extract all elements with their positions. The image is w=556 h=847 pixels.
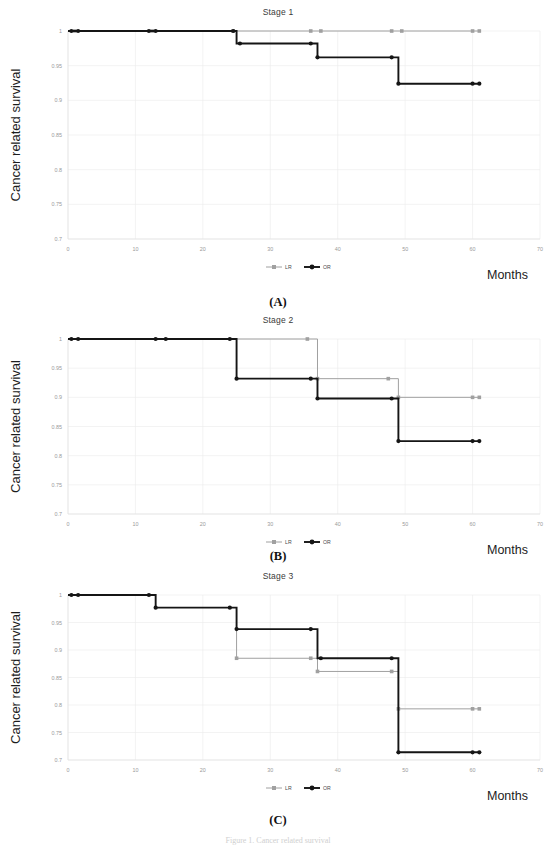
y-tick-label: 0.9 (55, 97, 63, 103)
censor-mark-lr (309, 29, 313, 33)
censor-mark-or (154, 337, 158, 341)
series-line-or (68, 595, 479, 752)
panel-title-stage-2: Stage 2 (0, 314, 556, 327)
x-tick-label: 20 (200, 521, 206, 527)
censor-mark-lr (235, 656, 239, 660)
censor-mark-or (477, 750, 481, 754)
censor-mark-or (470, 750, 474, 754)
panel-title-stage-3: Stage 3 (0, 570, 556, 583)
x-tick-label: 70 (537, 767, 543, 773)
censor-mark-or (315, 396, 319, 400)
legend-marker-lr (272, 265, 276, 269)
censor-mark-or (234, 377, 238, 381)
y-axis-title: Cancer related survival (8, 611, 23, 744)
y-tick-label: 0.75 (52, 201, 63, 207)
panel-stage-1: Stage 1 0.70.750.80.850.90.9510102030405… (0, 0, 556, 300)
censor-mark-or (309, 627, 313, 631)
y-tick-label: 1 (59, 28, 62, 34)
plot-area-stage-3: 0.70.750.80.850.90.951010203040506070Can… (0, 583, 556, 818)
censor-mark-lr (386, 377, 390, 381)
plot-area-stage-2: 0.70.750.80.850.90.951010203040506070Can… (0, 327, 556, 572)
y-tick-label: 0.85 (52, 424, 63, 430)
censor-mark-or (164, 337, 168, 341)
panel-letter-a: (A) (0, 294, 556, 311)
legend-marker-lr (272, 540, 276, 544)
km-chart-stage-1: 0.70.750.80.850.90.951010203040506070Can… (0, 19, 556, 297)
x-tick-label: 60 (470, 521, 476, 527)
legend-marker-or (310, 265, 315, 270)
legend-marker-lr (272, 786, 276, 790)
plot-area-stage-1: 0.70.750.80.850.90.951010203040506070Can… (0, 19, 556, 297)
y-tick-label: 1 (59, 592, 62, 598)
y-tick-label: 0.7 (55, 511, 63, 517)
censor-mark-lr (471, 29, 475, 33)
figure-caption: Figure 1. Cancer related survival (0, 836, 556, 845)
censor-mark-or (228, 606, 232, 610)
x-tick-label: 70 (537, 246, 543, 252)
x-axis-title: Months (487, 268, 528, 282)
censor-mark-or (228, 337, 232, 341)
panel-letter-b: (B) (0, 548, 556, 565)
censor-mark-lr (316, 670, 320, 674)
censor-mark-or (390, 396, 394, 400)
censor-mark-lr (400, 29, 404, 33)
panel-stage-3: Stage 3 0.70.750.80.850.90.9510102030405… (0, 570, 556, 830)
censor-mark-lr (478, 396, 482, 400)
legend-label-or: OR (323, 539, 331, 545)
censor-mark-or (470, 82, 474, 86)
x-tick-label: 20 (200, 767, 206, 773)
legend-label-or: OR (323, 785, 331, 791)
legend-marker-or (310, 786, 315, 791)
y-tick-label: 0.95 (52, 620, 63, 626)
y-tick-label: 0.75 (52, 730, 63, 736)
censor-mark-or (477, 439, 481, 443)
censor-mark-or (390, 656, 394, 660)
y-tick-label: 1 (59, 336, 62, 342)
x-tick-label: 10 (132, 767, 138, 773)
x-tick-label: 10 (132, 246, 138, 252)
censor-mark-or (69, 337, 73, 341)
y-tick-label: 0.8 (55, 453, 63, 459)
censor-mark-or (238, 41, 242, 45)
x-tick-label: 50 (402, 767, 408, 773)
censor-mark-lr (390, 29, 394, 33)
x-tick-label: 10 (132, 521, 138, 527)
x-tick-label: 0 (67, 521, 70, 527)
x-tick-label: 40 (335, 767, 341, 773)
censor-mark-lr (306, 337, 310, 341)
censor-mark-or (69, 593, 73, 597)
censor-mark-or (154, 29, 158, 33)
censor-mark-or (396, 439, 400, 443)
y-tick-label: 0.8 (55, 167, 63, 173)
censor-mark-lr (390, 670, 394, 674)
legend-label-lr: LR (285, 264, 292, 270)
x-tick-label: 40 (335, 246, 341, 252)
censor-mark-lr (319, 29, 323, 33)
legend-label-lr: LR (285, 539, 292, 545)
panel-title-stage-1: Stage 1 (0, 0, 556, 19)
censor-mark-or (231, 29, 235, 33)
x-tick-label: 30 (267, 767, 273, 773)
censor-mark-lr (471, 396, 475, 400)
y-tick-label: 0.7 (55, 757, 63, 763)
censor-mark-or (234, 627, 238, 631)
censor-mark-or (154, 606, 158, 610)
censor-mark-or (396, 82, 400, 86)
censor-mark-or (396, 750, 400, 754)
y-tick-label: 0.7 (55, 236, 63, 242)
x-tick-label: 60 (470, 767, 476, 773)
censor-mark-lr (309, 656, 313, 660)
km-chart-stage-2: 0.70.750.80.850.90.951010203040506070Can… (0, 327, 556, 572)
y-tick-label: 0.85 (52, 132, 63, 138)
censor-mark-or (76, 337, 80, 341)
censor-mark-or (390, 55, 394, 59)
censor-mark-or (309, 41, 313, 45)
x-tick-label: 60 (470, 246, 476, 252)
x-tick-label: 50 (402, 521, 408, 527)
x-axis-title: Months (487, 789, 528, 803)
censor-mark-or (477, 82, 481, 86)
censor-mark-lr (471, 707, 475, 711)
censor-mark-or (319, 656, 323, 660)
censor-mark-or (76, 29, 80, 33)
panel-stage-2: Stage 2 0.70.750.80.850.90.9510102030405… (0, 314, 556, 579)
